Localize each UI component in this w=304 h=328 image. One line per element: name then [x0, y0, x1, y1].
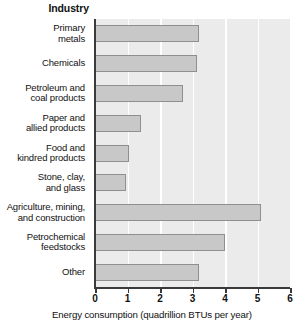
x-axis-title: Energy consumption (quadrillion BTUs per… [0, 309, 304, 320]
x-axis-tick-label: 4 [222, 293, 228, 304]
bar-row [95, 49, 290, 79]
bar-row [95, 168, 290, 198]
x-axis-tick-label: 0 [92, 293, 98, 304]
x-axis-tick [95, 288, 97, 293]
x-axis-tick-labels: 0123456 [95, 293, 290, 306]
x-axis-tick-label: 1 [125, 293, 131, 304]
category-label: Petroleum and coal products [0, 79, 90, 109]
x-axis-tick [290, 288, 292, 293]
y-axis-line [94, 19, 96, 288]
bar-row [95, 198, 290, 228]
bar-row [95, 227, 290, 257]
bar-row [95, 138, 290, 168]
category-label: Primary metals [0, 19, 90, 49]
bar [95, 234, 225, 251]
x-axis-tick-label: 5 [255, 293, 261, 304]
category-label: Other [0, 257, 90, 287]
category-label: Food and kindred products [0, 138, 90, 168]
x-axis-tick [160, 288, 162, 293]
x-axis-tick-label: 3 [190, 293, 196, 304]
plot-area [95, 19, 290, 287]
bar [95, 174, 126, 191]
category-label: Stone, clay, and glass [0, 168, 90, 198]
category-label: Petrochemical feedstocks [0, 227, 90, 257]
y-axis-title: Industry [0, 2, 89, 14]
bar-row [95, 257, 290, 287]
bar [95, 204, 261, 221]
x-axis-tick [128, 288, 130, 293]
bar-row [95, 19, 290, 49]
category-label: Agriculture, mining, and construction [0, 198, 90, 228]
energy-consumption-bar-chart: Industry Primary metalsChemicalsPetroleu… [0, 0, 304, 328]
x-axis-tick [225, 288, 227, 293]
bars-layer [95, 19, 290, 287]
bar-row [95, 108, 290, 138]
category-label: Paper and allied products [0, 108, 90, 138]
bar-row [95, 79, 290, 109]
bar [95, 115, 141, 132]
x-axis-tick [193, 288, 195, 293]
bar [95, 85, 183, 102]
x-axis-tick-label: 6 [287, 293, 293, 304]
x-axis-tick-label: 2 [157, 293, 163, 304]
bar [95, 25, 199, 42]
bar [95, 55, 197, 72]
x-axis-tick [258, 288, 260, 293]
bar [95, 264, 199, 281]
bar [95, 145, 129, 162]
category-label: Chemicals [0, 49, 90, 79]
category-label-axis: Primary metalsChemicalsPetroleum and coa… [0, 19, 90, 287]
